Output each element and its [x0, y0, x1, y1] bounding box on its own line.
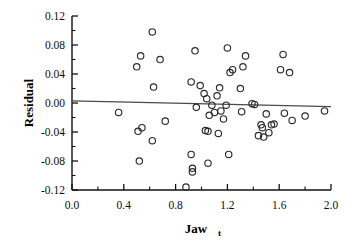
data-point: [277, 66, 283, 72]
data-point: [136, 158, 142, 164]
data-point: [134, 64, 140, 70]
data-point: [137, 53, 143, 59]
y-tick-label-1: 0.08: [45, 39, 65, 51]
y-axis-ticks: [72, 16, 78, 190]
data-point: [214, 93, 220, 99]
x-tick-label-1: 0.4: [117, 199, 132, 211]
data-point: [302, 113, 308, 119]
data-point: [289, 117, 295, 123]
data-point: [215, 130, 221, 136]
y-axis-tick-labels: 0.120.080.040.00-0.04-0.08-0.12: [41, 10, 65, 196]
y-tick-label-4: -0.04: [41, 126, 65, 138]
scatter-plot: 0.120.080.040.00-0.04-0.08-0.12 0.00.40.…: [0, 0, 345, 242]
data-point: [139, 124, 145, 130]
x-axis-tick-labels: 0.00.40.81.21.62.0: [65, 199, 339, 211]
data-point: [135, 128, 141, 134]
data-point: [211, 109, 217, 115]
data-point: [263, 111, 269, 117]
data-point: [188, 151, 194, 157]
y-tick-label-3: 0.00: [45, 97, 65, 109]
data-point: [286, 69, 292, 75]
data-point: [193, 104, 199, 110]
x-tick-label-2: 0.8: [168, 199, 183, 211]
y-axis-title: Residual: [21, 78, 36, 127]
data-point: [149, 29, 155, 35]
data-point: [216, 85, 222, 91]
data-point: [242, 53, 248, 59]
y-axis-title-text: Residual: [21, 78, 36, 127]
data-point: [321, 108, 327, 114]
data-point: [203, 95, 209, 101]
x-axis-title-subscript: t: [218, 228, 221, 238]
data-point: [281, 110, 287, 116]
data-point: [188, 79, 194, 85]
data-point: [192, 48, 198, 54]
data-point: [149, 138, 155, 144]
x-tick-label-3: 1.2: [220, 199, 235, 211]
data-point: [218, 108, 224, 114]
data-point: [240, 64, 246, 70]
data-point: [157, 56, 163, 62]
data-point: [238, 109, 244, 115]
data-point: [266, 130, 272, 136]
data-point: [220, 116, 226, 122]
data-point: [209, 102, 215, 108]
y-tick-label-5: -0.08: [41, 155, 65, 167]
x-axis-title-text: Jaw: [185, 221, 208, 236]
x-tick-label-0: 0.0: [65, 199, 80, 211]
data-point: [150, 84, 156, 90]
data-point: [197, 82, 203, 88]
data-point: [237, 85, 243, 91]
axes: [72, 16, 331, 190]
y-tick-label-0: 0.12: [45, 10, 65, 22]
x-tick-label-5: 2.0: [324, 199, 339, 211]
residual-scatter-figure: 0.120.080.040.00-0.04-0.08-0.12 0.00.40.…: [0, 0, 345, 242]
data-point: [280, 51, 286, 57]
data-point: [205, 160, 211, 166]
y-tick-label-2: 0.04: [45, 68, 65, 80]
regression-line: [72, 101, 331, 107]
data-point: [224, 45, 230, 51]
x-tick-label-4: 1.6: [272, 199, 287, 211]
data-point: [162, 118, 168, 124]
y-tick-label-6: -0.12: [41, 184, 65, 196]
x-axis-title: Jaw t: [185, 221, 221, 238]
data-point: [223, 102, 229, 108]
data-point: [115, 109, 121, 115]
data-point: [225, 151, 231, 157]
data-points: [115, 29, 327, 191]
